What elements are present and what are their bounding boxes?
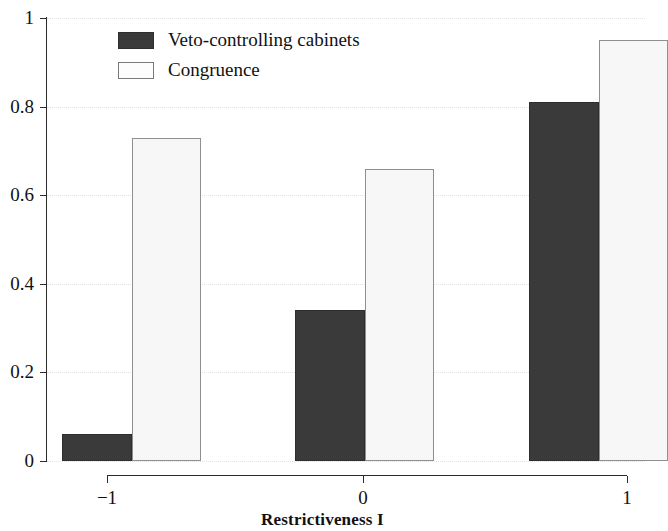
y-tick-mark-0_4: [40, 284, 47, 285]
x-axis-title: Restrictiveness I: [0, 510, 645, 530]
y-tick-label-0_6: 0.6: [0, 185, 34, 204]
bar-congruence-0: [365, 169, 434, 461]
y-axis-line: [46, 17, 47, 462]
y-tick-mark-0_2: [40, 372, 47, 373]
bar-veto-controlling-cabinets-neg1: [62, 434, 132, 461]
x-tick-label-1: 1: [597, 488, 657, 508]
legend-entry-congruence: Congruence: [118, 57, 360, 83]
y-tick-mark-0_6: [40, 195, 47, 196]
y-tick-mark-0_8: [40, 107, 47, 108]
x-tick-mark-0: [363, 476, 364, 483]
gridline-1_0: [47, 18, 645, 19]
legend-swatch-light-icon: [118, 62, 154, 79]
x-tick-mark-neg1: [107, 476, 108, 483]
y-tick-label-0_4: 0.4: [0, 274, 34, 293]
y-tick-mark-0_0: [40, 461, 47, 462]
y-tick-label-0_8: 0.8: [0, 97, 34, 116]
bar-congruence-neg1: [132, 138, 201, 461]
y-tick-label-1_0: 1: [0, 8, 34, 27]
bar-congruence-1: [599, 40, 668, 461]
legend-entry-veto-controlling-cabinets: Veto-controlling cabinets: [118, 27, 360, 53]
x-axis-line: [107, 475, 627, 476]
legend-swatch-dark-icon: [118, 32, 154, 49]
y-tick-mark-1_0: [40, 18, 47, 19]
y-tick-label-0_0: 0: [0, 451, 34, 470]
legend-label-veto-controlling-cabinets: Veto-controlling cabinets: [168, 30, 360, 50]
x-tick-label-neg1: −1: [77, 488, 137, 508]
legend-label-congruence: Congruence: [168, 60, 260, 80]
bar-veto-controlling-cabinets-1: [529, 102, 599, 461]
bar-veto-controlling-cabinets-0: [295, 310, 365, 461]
gridline-0_0: [47, 461, 645, 462]
chart-legend: Veto-controlling cabinets Congruence: [118, 27, 360, 87]
x-tick-mark-1: [627, 476, 628, 483]
y-tick-label-0_2: 0.2: [0, 362, 34, 381]
x-tick-label-0: 0: [333, 488, 393, 508]
